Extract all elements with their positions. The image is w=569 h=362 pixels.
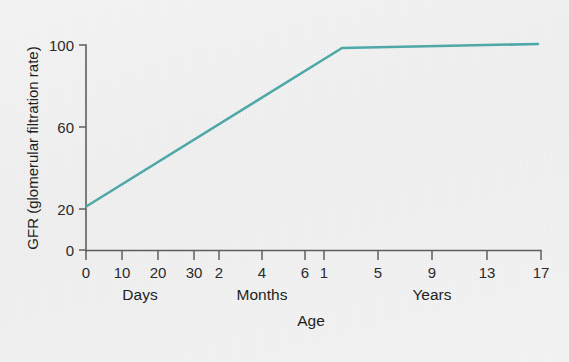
years-tick-label-1: 1 xyxy=(320,264,328,281)
y-axis-title: GFR (glomerular filtration rate) xyxy=(24,46,41,249)
y-tick-label-60: 60 xyxy=(57,119,74,136)
years-tick-label-9: 9 xyxy=(428,264,436,281)
days-tick-label-10: 10 xyxy=(114,264,131,281)
days-tick-label-20: 20 xyxy=(150,264,167,281)
gfr-age-chart: 100 60 20 0 GFR (glomerular filtration r… xyxy=(0,0,569,362)
y-tick-label-20: 20 xyxy=(57,201,74,218)
months-tick-label-6: 6 xyxy=(301,264,309,281)
months-tick-label-2: 2 xyxy=(215,264,223,281)
days-tick-label-0: 0 xyxy=(82,264,90,281)
x-axis-segment-days: 0 10 20 30 Days xyxy=(82,251,203,304)
x-segment-label-months: Months xyxy=(237,286,288,303)
x-axis-segment-years: 1 5 9 13 17 Years xyxy=(320,251,550,304)
gfr-data-line xyxy=(87,44,538,206)
months-tick-label-4: 4 xyxy=(258,264,266,281)
x-segment-label-years: Years xyxy=(412,286,451,303)
x-axis-title: Age xyxy=(297,312,325,329)
years-tick-label-17: 17 xyxy=(533,264,550,281)
years-tick-label-13: 13 xyxy=(479,264,496,281)
x-axis-segment-months: 2 4 6 Months xyxy=(215,251,309,304)
years-tick-label-5: 5 xyxy=(374,264,382,281)
x-segment-label-days: Days xyxy=(122,286,158,303)
y-tick-label-0: 0 xyxy=(66,242,74,259)
y-tick-label-100: 100 xyxy=(49,37,74,54)
days-tick-label-30: 30 xyxy=(186,264,203,281)
y-axis: 100 60 20 0 GFR (glomerular filtration r… xyxy=(24,37,86,259)
